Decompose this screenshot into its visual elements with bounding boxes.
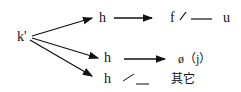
arrow-k-to-h2	[32, 38, 98, 58]
branch1-target: f	[170, 11, 175, 25]
slash-1	[180, 12, 186, 20]
branch2-target: ø（j）	[178, 52, 211, 66]
branch2-node: h	[104, 51, 111, 65]
branch1-context: u	[223, 11, 230, 25]
source-node: k'	[17, 30, 27, 44]
arrow-k-to-h3	[30, 40, 92, 76]
arrows	[0, 0, 241, 92]
branch1-node: h	[99, 11, 106, 25]
arrow-k-to-h1	[32, 18, 92, 36]
branch3-context: 其它	[171, 72, 195, 86]
slash-3	[123, 74, 134, 81]
branch3-node: h	[104, 72, 111, 86]
